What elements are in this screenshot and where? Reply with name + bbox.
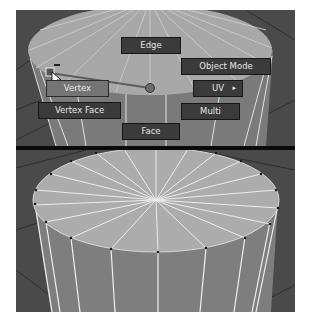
viewport-frame: Edge Object Mode Vertex UV ▸ Vertex Face… xyxy=(16,10,295,312)
menu-item-vertex[interactable]: Vertex xyxy=(46,80,109,97)
menu-item-multi[interactable]: Multi xyxy=(181,103,240,120)
marking-menu-center xyxy=(146,84,155,93)
menu-item-uv-label: UV xyxy=(212,83,224,93)
submenu-arrow-icon: ▸ xyxy=(232,81,236,96)
menu-item-object-mode[interactable]: Object Mode xyxy=(181,58,271,75)
upper-viewport-panel[interactable]: Edge Object Mode Vertex UV ▸ Vertex Face… xyxy=(16,10,295,146)
menu-item-uv[interactable]: UV ▸ xyxy=(193,80,243,97)
lower-viewport-panel[interactable] xyxy=(16,150,295,312)
menu-item-face[interactable]: Face xyxy=(122,123,180,140)
menu-item-vertex-face[interactable]: Vertex Face xyxy=(38,102,121,119)
cylinder-scene-lower xyxy=(16,150,295,312)
menu-item-edge[interactable]: Edge xyxy=(121,37,181,54)
